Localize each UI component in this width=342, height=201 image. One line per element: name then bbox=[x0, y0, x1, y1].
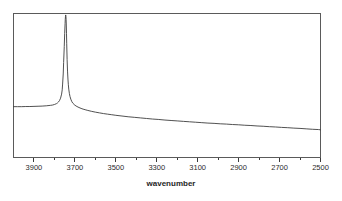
chart-canvas: 39003700350033003100290027002500 wavenum… bbox=[0, 0, 342, 201]
x-axis-tick-labels: 39003700350033003100290027002500 bbox=[26, 163, 329, 172]
x-tick-label: 2900 bbox=[230, 163, 247, 172]
x-tick-label: 2700 bbox=[271, 163, 288, 172]
spectrum-line bbox=[14, 15, 321, 130]
x-tick-label: 3900 bbox=[26, 163, 43, 172]
spectrum-series bbox=[14, 15, 321, 130]
x-tick-label: 2500 bbox=[312, 163, 329, 172]
x-axis-ticks bbox=[34, 158, 321, 162]
plot-frame bbox=[14, 14, 321, 158]
x-tick-label: 3500 bbox=[107, 163, 124, 172]
frame-border bbox=[14, 14, 321, 158]
x-tick-label: 3700 bbox=[67, 163, 84, 172]
x-tick-label: 3300 bbox=[148, 163, 165, 172]
x-tick-label: 3100 bbox=[189, 163, 206, 172]
x-axis-title: wavenumber bbox=[146, 179, 196, 188]
spectrum-chart: 39003700350033003100290027002500 wavenum… bbox=[0, 0, 342, 201]
